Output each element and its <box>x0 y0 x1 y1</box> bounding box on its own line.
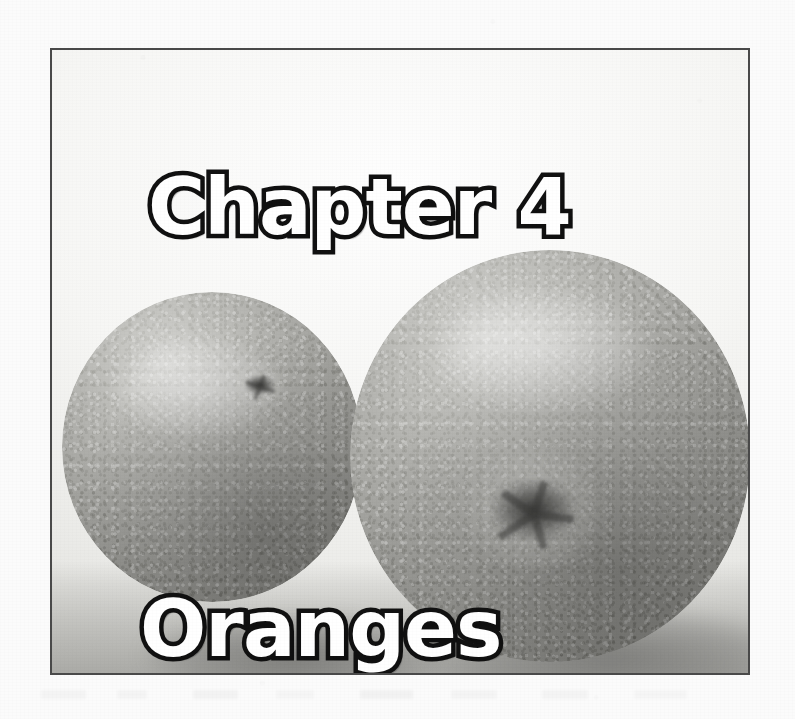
figure-frame: Chapter 4 Oranges <box>50 48 750 675</box>
scan-bleedthrough-artifact <box>18 684 778 716</box>
orange-left-shading <box>62 292 362 602</box>
orange-left-stem-scar <box>245 375 275 395</box>
scanned-page: Chapter 4 Oranges <box>0 0 795 719</box>
orange-right-calyx-scar <box>491 479 577 541</box>
orange-left <box>62 292 362 602</box>
chapter-title: Chapter 4 <box>148 168 571 246</box>
chapter-subject-title: Oranges <box>140 590 502 668</box>
